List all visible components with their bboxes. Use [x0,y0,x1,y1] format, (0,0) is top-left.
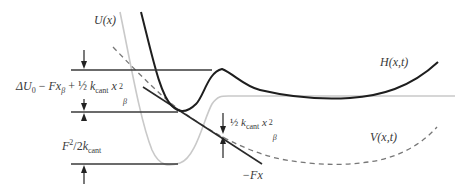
beta-subscript: β [273,134,277,142]
f-symbol: F [49,79,56,93]
minus-sign: − [36,79,49,93]
spring-energy-label: ½ kcant x2β [230,117,267,131]
h-curve-label: H(x,t) [380,56,408,68]
barrier-height-label: ΔU0 − Fxβ + ½ kcant x2β [16,80,117,95]
half-symbol: ½ [78,79,87,93]
slash-two: /2 [73,139,82,153]
arrow-up-icon [81,165,87,173]
arrow-down-icon [81,103,87,111]
x-symbol: x [112,79,117,93]
x-symbol: x [262,116,267,128]
u-curve-label: U(x) [94,14,116,26]
minus-fx-label: −Fx [242,169,263,181]
beta-subscript: β [123,98,127,106]
cant-subscript: cant [88,146,101,155]
cant-subscript: cant [246,122,259,131]
squared-superscript: 2 [119,83,123,91]
arrow-up-icon [81,113,87,121]
arrow-down-icon [220,126,226,134]
diagram-canvas [0,0,455,192]
delta-u-text: ΔU [16,79,32,93]
v-curve-label: V(x,t) [370,131,397,143]
energy-landscape-diagram: U(x) H(x,t) V(x,t) −Fx ΔU0 − Fxβ + ½ kca… [0,0,455,192]
plus-sign: + [65,79,78,93]
force-term-label: F2/2kcant [62,139,101,155]
squared-superscript: 2 [269,119,273,127]
half-symbol: ½ [230,116,238,128]
u-curve [120,12,455,165]
cant-subscript: cant [95,86,108,95]
arrow-down-icon [81,61,87,69]
